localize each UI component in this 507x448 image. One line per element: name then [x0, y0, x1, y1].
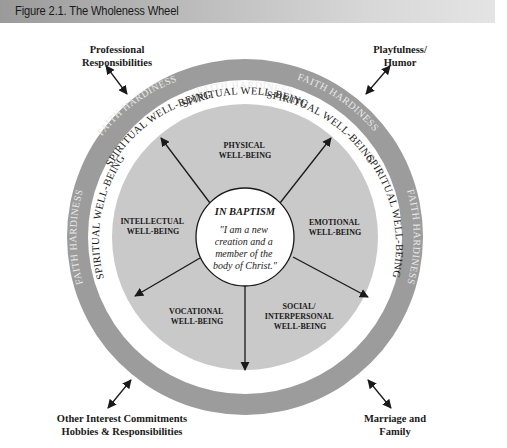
corner-label-line: Hobbies & Responsibilities — [42, 425, 202, 438]
corner-label-line: Playfulness/ — [355, 43, 445, 56]
segment-emotional: EMOTIONAL WELL-BEING — [309, 218, 361, 237]
corner-label-other-interests: Other Interest Commitments Hobbies & Res… — [42, 412, 202, 438]
corner-label-playfulness: Playfulness/ Humor — [355, 43, 445, 69]
corner-label-professional: Professional Responsibilities — [62, 43, 172, 69]
center-heading: IN BAPTISM — [214, 206, 276, 217]
segment-physical: PHYSICAL WELL-BEING — [219, 141, 271, 160]
corner-label-line: Humor — [355, 56, 445, 69]
corner-label-line: Professional — [62, 43, 172, 56]
segment-vocational: VOCATIONAL WELL-BEING — [169, 307, 225, 326]
corner-label-marriage: Marriage and Family — [350, 412, 440, 438]
center-quote: "I am a new creation and a member of the… — [213, 224, 278, 271]
segment-intellectual: INTELLECTUAL WELL-BEING — [120, 217, 185, 236]
corner-label-line: Other Interest Commitments — [42, 412, 202, 425]
corner-label-line: Responsibilities — [62, 56, 172, 69]
corner-label-line: Family — [350, 425, 440, 438]
corner-label-line: Marriage and — [350, 412, 440, 425]
